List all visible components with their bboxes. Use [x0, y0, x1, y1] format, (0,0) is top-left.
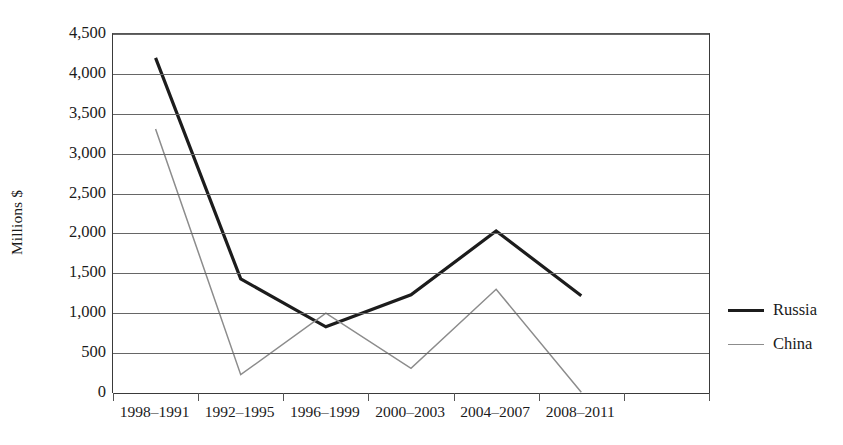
legend-item-china: China — [728, 327, 840, 361]
x-axis-tick — [368, 393, 369, 401]
x-axis-tick — [539, 393, 540, 401]
x-axis-tick-label: 2004–2007 — [460, 404, 530, 420]
x-axis-tick-label: 2000–2003 — [375, 404, 445, 420]
gridline — [113, 273, 709, 274]
y-axis-tick-labels: 4,5004,0003,5003,0002,5002,0001,5001,000… — [30, 0, 106, 445]
gridline — [113, 194, 709, 195]
x-axis-baseline — [113, 393, 709, 394]
legend-line-swatch-icon — [728, 344, 764, 345]
gridline — [113, 353, 709, 354]
y-axis-tick-label: 3,000 — [30, 144, 106, 161]
y-axis-tick-label: 1,000 — [30, 304, 106, 321]
gridline — [113, 233, 709, 234]
x-axis-tick-label: 1998–1991 — [120, 404, 190, 420]
legend-item-label: China — [773, 336, 812, 353]
gridline — [113, 34, 709, 35]
y-axis-tick-label: 4,000 — [30, 65, 106, 82]
gridline — [113, 154, 709, 155]
series-lines — [113, 34, 709, 393]
x-axis-tick-label: 1996–1999 — [290, 404, 360, 420]
x-axis-tick — [198, 393, 199, 401]
legend-item-label: Russia — [773, 302, 817, 319]
x-axis-tick-label: 2008–2011 — [546, 404, 615, 420]
legend: RussiaChina — [728, 293, 840, 361]
y-axis-tick-label: 1,500 — [30, 264, 106, 281]
plot-area — [112, 33, 710, 393]
y-axis-tick-label: 3,500 — [30, 105, 106, 122]
series-line-russia — [156, 58, 582, 327]
gridline — [113, 313, 709, 314]
gridline — [113, 114, 709, 115]
x-axis-tick — [454, 393, 455, 401]
legend-item-russia: Russia — [728, 293, 840, 327]
x-axis-tick — [113, 393, 114, 401]
line-chart: Millions $ 4,5004,0003,5003,0002,5002,00… — [0, 0, 843, 445]
x-axis-tick-label: 1992–1995 — [205, 404, 275, 420]
x-axis-tick-labels: 1998–19911992–19951996–19992000–20032004… — [0, 404, 843, 430]
legend-line-swatch-icon — [728, 309, 764, 312]
y-axis-tick-label: 0 — [30, 384, 106, 401]
y-axis-tick-label: 4,500 — [30, 25, 106, 42]
y-axis-title: Millions $ — [0, 0, 34, 445]
x-axis-tick — [283, 393, 284, 401]
x-axis-tick — [624, 393, 625, 401]
x-axis-tick — [709, 393, 710, 401]
y-axis-tick-label: 2,500 — [30, 184, 106, 201]
y-axis-tick-label: 2,000 — [30, 224, 106, 241]
y-axis-tick-label: 500 — [30, 344, 106, 361]
gridline — [113, 74, 709, 75]
